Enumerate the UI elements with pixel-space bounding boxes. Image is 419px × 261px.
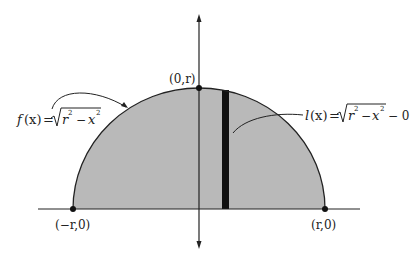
label-top-point: (0,r) <box>169 72 196 86</box>
svg-text:− 0: − 0 <box>388 109 410 123</box>
svg-text:2: 2 <box>380 105 384 113</box>
f-function-label: f (x) = r 2 − x 2 <box>16 108 101 127</box>
label-left-point: (−r,0) <box>55 218 90 232</box>
l-function-label: l (x) = r 2 − x 2 − 0 <box>305 104 410 123</box>
f-leader-arrowhead-icon <box>121 102 128 108</box>
svg-text:f: f <box>16 112 24 127</box>
y-axis-down-arrow-icon <box>197 241 202 249</box>
label-right-point: (r,0) <box>311 218 336 232</box>
point-right <box>322 206 328 212</box>
svg-text:−: − <box>361 109 371 123</box>
svg-text:2: 2 <box>68 109 72 117</box>
point-top <box>196 85 202 91</box>
svg-text:2: 2 <box>96 109 100 117</box>
svg-text:−: − <box>76 113 86 127</box>
y-axis-up-arrow-icon <box>197 14 202 22</box>
semicircle-diagram: (0,r) (−r,0) (r,0) f (x) = r 2 − x 2 l (… <box>0 0 419 261</box>
point-left <box>70 206 76 212</box>
area-strip <box>222 90 229 209</box>
svg-text:l: l <box>305 108 309 123</box>
svg-text:2: 2 <box>354 105 358 113</box>
svg-text:x: x <box>372 108 380 123</box>
svg-text:(x): (x) <box>310 108 327 123</box>
f-leader-curve <box>52 93 126 109</box>
svg-text:x: x <box>88 112 96 127</box>
svg-text:=: = <box>329 108 340 123</box>
svg-text:(x): (x) <box>24 112 41 127</box>
svg-text:=: = <box>43 112 54 127</box>
